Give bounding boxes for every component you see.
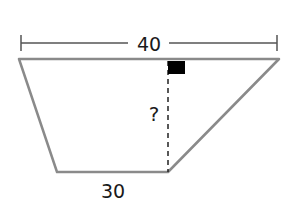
- right-angle-marker: [168, 61, 185, 74]
- top-width-label: 40: [137, 33, 161, 55]
- bottom-width-label: 30: [101, 180, 125, 202]
- trapezoid-diagram: 40 ? 30: [0, 0, 291, 216]
- height-label: ?: [149, 102, 160, 126]
- top-dimension: 40: [21, 33, 277, 55]
